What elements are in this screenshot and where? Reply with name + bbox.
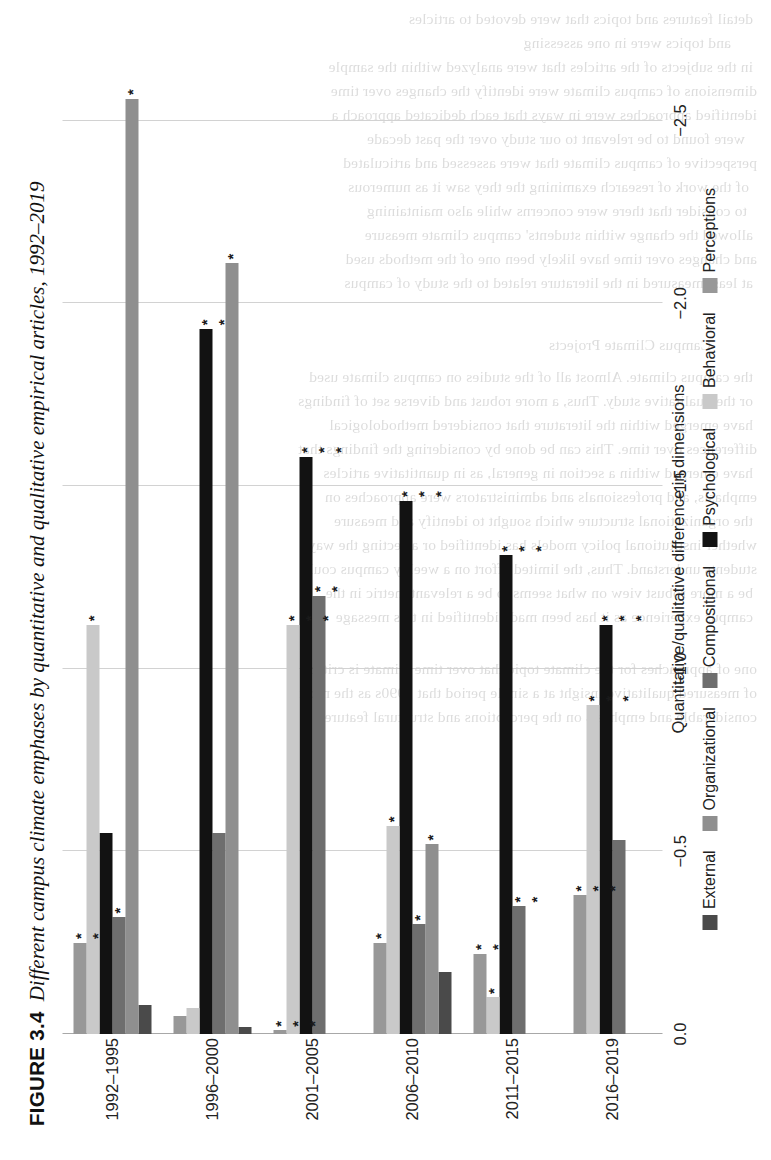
significance-marker: * xyxy=(371,934,388,939)
bar-behavioral xyxy=(186,1008,199,1034)
bar-perceptions xyxy=(473,954,486,1034)
bar-psychological xyxy=(199,329,212,1034)
significance-marker: *** xyxy=(584,696,635,701)
category-label: 2001–2005 xyxy=(303,1038,322,1121)
figure-number: FIGURE 3.4 xyxy=(24,1011,47,1126)
bar-organizational xyxy=(425,844,438,1034)
legend-item[interactable]: Psychological xyxy=(700,428,718,547)
significance-marker: * xyxy=(110,908,127,913)
category-label: 2006–2010 xyxy=(403,1038,422,1121)
significance-marker: * xyxy=(423,835,440,840)
significance-marker: * xyxy=(384,817,401,822)
legend-label: Organizational xyxy=(700,707,718,810)
bar-behavioral xyxy=(486,997,499,1034)
bar-behavioral xyxy=(286,625,299,1034)
bar-group: ***** xyxy=(62,84,162,1034)
significance-marker: *** xyxy=(397,492,448,497)
bar-psychological xyxy=(599,625,612,1034)
value-axis-label: Quantitative/qualitative difference in d… xyxy=(668,84,687,1034)
legend-swatch-icon xyxy=(702,394,717,409)
bar-group: ******* xyxy=(362,84,462,1034)
significance-marker: * xyxy=(484,988,501,993)
significance-marker: *** xyxy=(271,1021,322,1026)
bar-psychological xyxy=(499,555,512,1034)
legend-swatch-icon xyxy=(702,278,717,293)
legend-label: Perceptions xyxy=(700,188,718,273)
significance-marker: * xyxy=(223,254,240,259)
bar-behavioral xyxy=(86,625,99,1034)
significance-marker: *** xyxy=(597,616,648,621)
significance-marker: *** xyxy=(297,448,348,453)
bar-perceptions xyxy=(573,895,586,1034)
significance-marker: ** xyxy=(197,320,231,325)
bar-compositional xyxy=(412,924,425,1034)
figure-canvas: FIGURE 3.4Different campus climate empha… xyxy=(0,0,771,1160)
bar-compositional xyxy=(112,917,125,1034)
category-label: 1996–2000 xyxy=(203,1038,222,1121)
bar-group: *********** xyxy=(262,84,362,1034)
bar-perceptions xyxy=(73,943,86,1034)
bar-psychological xyxy=(299,457,312,1034)
bar-external xyxy=(138,1005,151,1034)
legend-item[interactable]: Behavioral xyxy=(700,312,718,409)
bar-compositional xyxy=(612,840,625,1034)
bar-organizational xyxy=(225,263,238,1034)
bar-external xyxy=(238,1027,251,1034)
figure-caption: Different campus climate emphases by qua… xyxy=(24,182,48,1002)
legend-label: Psychological xyxy=(700,428,718,526)
significance-marker: *** xyxy=(571,886,622,891)
significance-marker: * xyxy=(410,915,427,920)
significance-marker: ** xyxy=(310,587,344,592)
legend-swatch-icon xyxy=(702,673,717,688)
category-label: 2016–2019 xyxy=(603,1038,622,1121)
bar-perceptions xyxy=(373,943,386,1034)
significance-marker: ** xyxy=(71,934,105,939)
legend-swatch-icon xyxy=(702,532,717,547)
significance-marker: * xyxy=(84,616,101,621)
legend-item[interactable]: Perceptions xyxy=(700,188,718,294)
category-label: 2011–2015 xyxy=(503,1038,522,1119)
legend-label: Compositional xyxy=(700,566,718,667)
significance-marker: ** xyxy=(510,897,544,902)
chart-legend: ExternalOrganizationalCompositionalPsych… xyxy=(700,84,718,1034)
significance-marker: *** xyxy=(497,546,548,551)
significance-marker: *** xyxy=(284,616,335,621)
legend-label: Behavioral xyxy=(700,312,718,388)
significance-marker: * xyxy=(123,90,140,95)
legend-swatch-icon xyxy=(702,816,717,831)
bar-perceptions xyxy=(173,1016,186,1034)
bar-behavioral xyxy=(586,705,599,1034)
bar-compositional xyxy=(212,833,225,1034)
category-label: 1992–1995 xyxy=(103,1038,122,1121)
bar-group: ********* xyxy=(562,84,662,1034)
legend-item[interactable]: Compositional xyxy=(700,566,718,688)
bar-group: *** xyxy=(162,84,262,1034)
legend-swatch-icon xyxy=(702,915,717,930)
bar-psychological xyxy=(399,501,412,1034)
bar-chart-plot-area: 0.0−0.5−1.0−1.5−2.0−2.5*****1992–1995***… xyxy=(62,84,662,1034)
figure-title: FIGURE 3.4Different campus climate empha… xyxy=(24,26,49,1126)
bar-compositional xyxy=(312,596,325,1034)
legend-item[interactable]: Organizational xyxy=(700,707,718,831)
bar-organizational xyxy=(125,99,138,1034)
bar-external xyxy=(438,972,451,1034)
bar-compositional xyxy=(512,906,525,1034)
legend-item[interactable]: External xyxy=(700,850,718,930)
legend-label: External xyxy=(700,850,718,909)
significance-marker: ** xyxy=(471,945,505,950)
bar-group: ******** xyxy=(462,84,562,1034)
